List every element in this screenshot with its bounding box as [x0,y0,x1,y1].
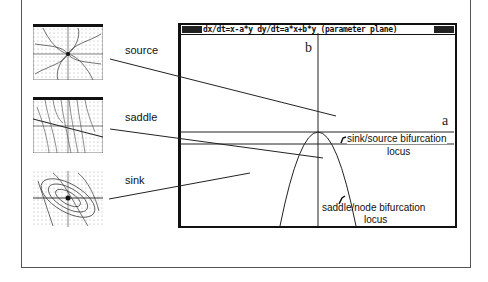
spiral-source-icon [33,24,103,80]
window-titlebar: dx/dt=x-a*y dy/dt=a*x+b*y (parameter pla… [181,25,455,35]
sink-phase-portrait [33,171,103,227]
source-phase-portrait [33,24,103,80]
saddle-label: saddle [125,111,157,123]
source-label: source [125,44,158,56]
b-axis-label: b [305,40,312,56]
zoom-box-icon[interactable] [434,26,454,33]
sink-source-annotation: sink/source bifurcation [347,133,447,144]
saddle-phase-portrait [33,97,103,153]
saddle-node-annotation: saddle/node bifurcation [322,202,425,213]
sink-label: sink [125,174,145,186]
parameter-plane-window: dx/dt=x-a*y dy/dt=a*x+b*y (parameter pla… [178,23,457,228]
saddle-icon [33,97,103,153]
sink-source-locus-annotation: locus [387,146,410,157]
window-title: dx/dt=x-a*y dy/dt=a*x+b*y (parameter pla… [203,25,433,34]
saddle-node-locus-annotation: locus [364,214,387,225]
spiral-sink-icon [33,171,103,227]
close-box-icon[interactable] [182,26,202,33]
a-axis-label: a [442,113,448,129]
